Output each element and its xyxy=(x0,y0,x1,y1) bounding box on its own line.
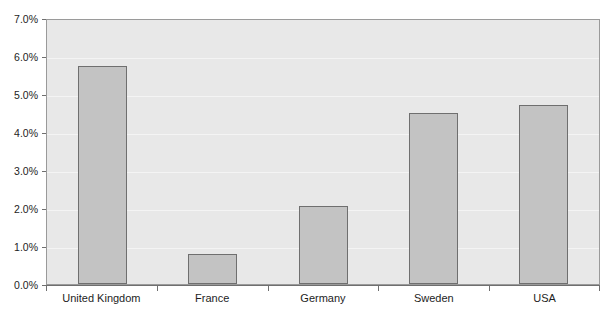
bar-series xyxy=(47,20,599,284)
y-axis-tick: 1.0% xyxy=(0,241,46,253)
x-axis-tick-mark xyxy=(378,286,379,291)
y-axis-tick-label: 5.0% xyxy=(14,89,42,101)
chart-title xyxy=(0,0,613,5)
x-axis-tick-mark xyxy=(157,286,158,291)
plot-area xyxy=(46,19,600,285)
y-axis-tick-label: 7.0% xyxy=(14,13,42,25)
y-axis-tick-label: 4.0% xyxy=(14,127,42,139)
bar-germany xyxy=(299,206,348,284)
bar-cell xyxy=(489,20,599,284)
y-axis-tick-label: 3.0% xyxy=(14,165,42,177)
bar-sweden xyxy=(409,113,458,284)
bar-united-kingdom xyxy=(78,66,127,285)
y-axis-tick: 3.0% xyxy=(0,165,46,177)
x-axis-ticks xyxy=(46,286,600,291)
x-axis-label: United Kingdom xyxy=(46,292,157,304)
x-axis-tick-mark xyxy=(599,286,600,291)
bar-cell xyxy=(157,20,267,284)
x-axis-label: Sweden xyxy=(378,292,489,304)
x-axis-tick-mark xyxy=(268,286,269,291)
y-axis-tick: 6.0% xyxy=(0,51,46,63)
y-axis-tick: 2.0% xyxy=(0,203,46,215)
y-axis-tick: 5.0% xyxy=(0,89,46,101)
bar-france xyxy=(188,254,237,284)
y-axis-tick-label: 6.0% xyxy=(14,51,42,63)
y-axis-tick: 7.0% xyxy=(0,13,46,25)
x-axis-tick-mark xyxy=(489,286,490,291)
x-axis-label: USA xyxy=(489,292,600,304)
bar-cell xyxy=(47,20,157,284)
x-axis-label: Germany xyxy=(268,292,379,304)
y-axis-tick: 4.0% xyxy=(0,127,46,139)
bar-cell xyxy=(268,20,378,284)
x-axis-labels: United KingdomFranceGermanySwedenUSA xyxy=(46,292,600,304)
y-axis-tick-label: 0.0% xyxy=(14,279,42,291)
y-axis-tick-label: 2.0% xyxy=(14,203,42,215)
bar-chart: 0.0%1.0%2.0%3.0%4.0%5.0%6.0%7.0% United … xyxy=(0,0,613,320)
y-axis: 0.0%1.0%2.0%3.0%4.0%5.0%6.0%7.0% xyxy=(0,19,46,285)
y-axis-tick: 0.0% xyxy=(0,279,46,291)
x-axis-label: France xyxy=(157,292,268,304)
y-axis-tick-label: 1.0% xyxy=(14,241,42,253)
bar-usa xyxy=(519,105,568,284)
bar-cell xyxy=(378,20,488,284)
x-axis-tick-mark xyxy=(46,286,47,291)
